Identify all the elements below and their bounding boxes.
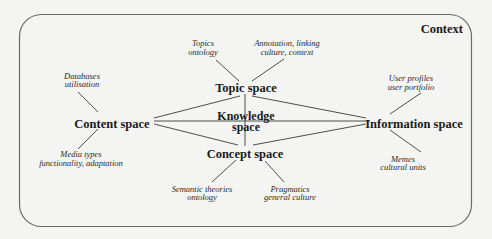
leader-topics-ontology (216, 60, 239, 81)
annotation-memes-line2: cultural units (380, 162, 426, 172)
leader-media-types (78, 129, 98, 149)
annotation-semantic-line2: ontology (187, 192, 217, 202)
annotation-media-line2: functionality, adaptation (39, 158, 123, 168)
leader-databases (78, 92, 98, 112)
content-space-node: Content space (74, 117, 150, 131)
knowledge-space-node-line2: space (232, 120, 261, 134)
edge-content-concept (154, 124, 238, 145)
concept-space-node: Concept space (207, 147, 284, 161)
leader-annotation-linking (252, 59, 284, 81)
leader-user-profiles (390, 93, 421, 114)
leader-pragmatics (265, 161, 284, 182)
annotation-linking-line2: culture, context (261, 47, 314, 57)
topic-space-node: Topic space (215, 81, 277, 95)
annotation-pragmatics-line2: general culture (264, 192, 316, 202)
leader-semantic-theories (212, 160, 236, 182)
knowledge-space-diagram: Context Topic space Knowledge space Cont… (0, 0, 492, 239)
annotation-topics-line2: ontology (188, 47, 218, 57)
edge-concept-information (253, 124, 366, 145)
annotation-user-profiles-line2: user portfolio (388, 82, 435, 92)
information-space-node: Information space (365, 117, 463, 131)
leader-memes (390, 130, 421, 152)
annotation-databases-line2: utilisation (65, 79, 99, 89)
context-label: Context (421, 22, 464, 36)
